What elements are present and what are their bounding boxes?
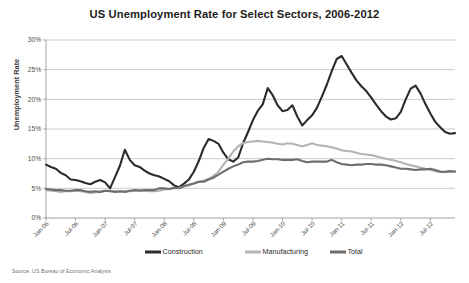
x-tick-label: Jan-11 [328,219,346,237]
data-series-group [46,56,455,193]
x-tick-label: Jul-06 [63,219,80,236]
x-tick-label: Jan-08 [150,219,169,238]
y-axis-tick-labels: 0%5%10%15%20%25%30% [28,36,41,221]
x-tick-label: Jul-10 [299,219,316,236]
y-tick-label: 25% [28,66,41,73]
chart-title: US Unemployment Rate for Select Sectors,… [0,8,469,20]
y-axis-title: Unemployment Rate [12,35,21,155]
chart-legend: ConstructionManufacturingTotal [145,247,363,256]
legend-label-manufacturing: Manufacturing [263,247,309,256]
chart-container: US Unemployment Rate for Select Sectors,… [0,0,469,283]
x-tick-label: Jan-09 [209,219,228,238]
series-line-construction [46,56,455,188]
y-tick-label: 0% [31,214,41,221]
x-tick-label: Jul-08 [181,219,198,236]
y-tick-label: 5% [31,185,41,192]
x-tick-label: Jul-09 [240,219,257,236]
legend-label-total: Total [348,247,364,256]
y-tick-label: 20% [28,96,41,103]
x-tick-label: Jul-11 [359,219,376,236]
x-axis-tick-labels: Jan-06Jul-06Jan-07Jul-07Jan-08Jul-08Jan-… [32,219,435,238]
y-tick-label: 10% [28,155,41,162]
x-tick-label: Jan-10 [268,219,287,238]
x-tick-label: Jan-06 [32,219,51,238]
x-tick-label: Jul-07 [122,219,139,236]
series-line-total [46,159,455,192]
y-tick-label: 30% [28,36,41,43]
x-tick-label: Jan-07 [91,219,110,238]
y-tick-label: 15% [28,125,41,132]
x-tick-label: Jul-12 [417,219,434,236]
source-note: Source: US Bureau of Economic Analysis [12,268,111,274]
legend-label-construction: Construction [163,247,203,256]
x-tick-label: Jan-12 [386,219,405,238]
chart-plot-area: 0%5%10%15%20%25%30% Jan-06Jul-06Jan-07Ju… [0,0,469,262]
